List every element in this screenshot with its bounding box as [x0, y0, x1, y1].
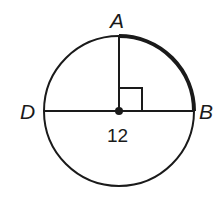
center-point: [115, 107, 123, 115]
measure-label: 12: [107, 125, 128, 146]
label-b: B: [199, 100, 213, 123]
highlighted-arc-ab: [119, 36, 194, 111]
label-d: D: [20, 100, 35, 123]
circle-diagram: A D B 12: [0, 0, 220, 198]
label-a: A: [108, 9, 124, 32]
right-angle-marker: [119, 88, 142, 111]
